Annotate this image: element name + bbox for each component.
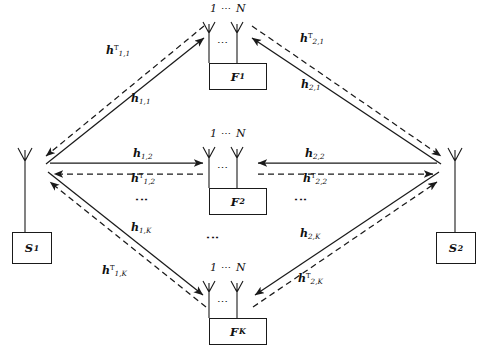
antenna-count-caption-f2: 1 ⋯ N [210,127,246,140]
antenna-s2 [448,148,462,232]
channel-label-h-2-2-T: hT2,2 [303,173,327,186]
channel-h-1-1-symbol: h [131,92,139,105]
channel-label-h-1-1-T: hT1,1 [106,45,130,58]
channel-h-2-K-T-subscript: 2,K [311,277,323,286]
figure-canvas: S1 S2 F1 F2 FK 1 ⋯ N 1 ⋯ N 1 ⋯ N ⋯ ⋯ ⋯ ⋮… [0,0,486,362]
relay-fk-label: F [230,325,238,339]
channel-label-h-1-K: h1,K [131,222,151,235]
source-s2-subscript: 2 [458,244,464,253]
link-lines-layer [0,0,486,362]
relay-node-f2: F2 [209,188,267,215]
antenna-caption-fk-last: N [236,261,246,274]
channel-h-2-2-T-subscript: 2,2 [316,177,328,186]
channel-h-2-K-symbol: h [300,227,308,240]
channel-h-2-1-symbol: h [301,78,309,91]
channel-h-1-K-T-subscript: 1,K [115,269,127,278]
antenna-caption-f1-first: 1 [210,2,217,15]
antenna-caption-f1-dots: ⋯ [221,3,232,14]
antenna-caption-fk-dots: ⋯ [221,262,232,273]
channel-h-2-2-symbol: h [305,147,313,160]
array-mid-dots-f2: ⋯ [217,163,229,174]
source-s1-subscript: 1 [34,244,40,253]
channel-h-1-K-T-symbol: h [102,264,110,277]
array-mid-dots-fk: ⋯ [217,297,229,308]
channel-h-1-2-T-symbol: h [131,172,139,185]
channel-h-2-1-T-symbol: h [300,32,308,45]
channel-label-h-2-1-T: hT2,1 [300,33,324,46]
channel-label-h-2-1: h2,1 [301,79,321,92]
channel-label-h-1-2: h1,2 [133,148,153,161]
vertical-ellipsis-left: ⋮ [136,193,149,207]
channel-h-1-K-symbol: h [131,221,139,234]
link-s2-fk-solid [255,172,439,295]
antenna-caption-f2-last: N [236,127,246,140]
source-s1-label: S [25,241,34,255]
antenna-caption-f2-first: 1 [210,127,217,140]
relay-node-fk: FK [209,318,267,345]
channel-h-1-2-symbol: h [133,147,141,160]
relay-fk-subscript: K [239,327,246,336]
antenna-s1 [18,148,32,232]
channel-h-2-1-subscript: 2,1 [309,83,321,92]
channel-h-2-2-T-symbol: h [303,172,311,185]
channel-label-h-1-1: h1,1 [131,93,151,106]
channel-h-1-1-T-symbol: h [106,44,114,57]
channel-h-2-2-subscript: 2,2 [313,152,325,161]
vertical-ellipsis-right: ⋮ [295,193,308,207]
antenna-caption-f1-last: N [236,2,246,15]
channel-label-h-2-2: h2,2 [305,148,325,161]
channel-h-1-1-T-subscript: 1,1 [119,49,131,58]
channel-h-2-1-T-subscript: 2,1 [313,37,325,46]
channel-h-1-2-subscript: 1,2 [141,152,153,161]
channel-h-1-2-T-subscript: 1,2 [144,177,156,186]
channel-h-2-K-T-symbol: h [298,272,306,285]
channel-label-h-1-2-T: hT1,2 [131,173,155,186]
source-s2-label: S [449,241,458,255]
link-s2-f1-solid [252,38,441,164]
vertical-ellipsis-center: ⋮ [207,231,220,245]
channel-label-h-1-K-T: hT1,K [102,265,127,278]
source-node-s1: S1 [12,232,52,264]
relay-f1-label: F [231,70,239,84]
array-mid-dots-f1: ⋯ [217,38,229,49]
relay-node-f1: F1 [209,63,267,90]
relay-f1-subscript: 1 [240,72,246,81]
channel-label-h-2-K: h2,K [300,228,320,241]
link-s1-fk-dashed [50,182,206,307]
antenna-count-caption-fk: 1 ⋯ N [210,261,246,274]
link-s2-fk-dashed [253,182,437,307]
antenna-caption-fk-first: 1 [210,261,217,274]
channel-h-2-K-subscript: 2,K [308,232,320,241]
relay-f2-label: F [231,195,239,209]
antenna-caption-f2-dots: ⋯ [221,128,232,139]
antenna-count-caption-f1: 1 ⋯ N [210,2,246,15]
relay-f2-subscript: 2 [240,197,246,206]
channel-h-1-K-subscript: 1,K [139,226,151,235]
channel-label-h-2-K-T: hT2,K [298,273,323,286]
source-node-s2: S2 [436,232,476,264]
link-s2-f1-dashed [252,26,441,156]
channel-h-1-1-subscript: 1,1 [139,97,151,106]
